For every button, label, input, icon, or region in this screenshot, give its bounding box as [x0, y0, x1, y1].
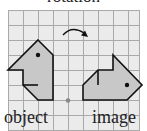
image-dot	[125, 83, 129, 87]
object-dot	[36, 53, 40, 57]
image-label: image	[92, 107, 136, 127]
center-of-rotation-point	[66, 98, 71, 103]
object-label: object	[4, 107, 48, 127]
